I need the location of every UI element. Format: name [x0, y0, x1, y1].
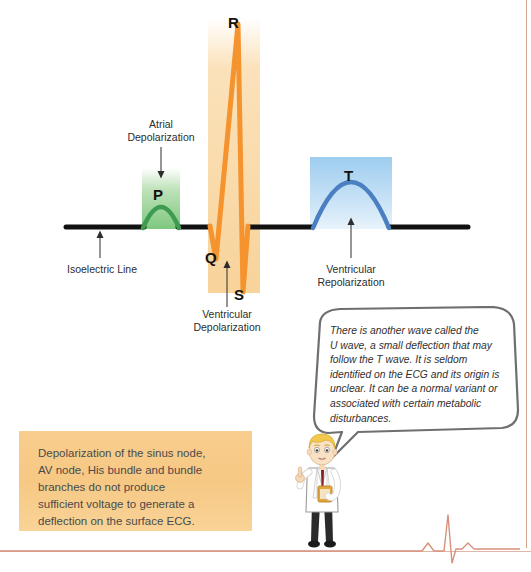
r-wave-label: R	[228, 14, 239, 31]
s-wave-label: S	[234, 286, 244, 303]
q-wave-label: Q	[205, 249, 217, 266]
atrial-depolarization-label: Atrial Depolarization	[111, 118, 211, 144]
ecg-waveform-diagram	[0, 0, 531, 340]
isoelectric-line-label: Isoelectric Line	[47, 263, 157, 276]
decorative-ecg-trace	[0, 505, 531, 565]
ventricular-depolarization-label: Ventricular Depolarization	[177, 308, 277, 334]
ventricular-repolarization-label: Ventricular Repolarization	[301, 263, 401, 289]
isoelectric-arrow-head	[97, 231, 104, 239]
slide-canvas: P Q R S T Atrial Depolarization Isoelect…	[0, 0, 531, 572]
t-wave-label: T	[344, 167, 353, 184]
speech-bubble-text: There is another wave called the U wave,…	[330, 324, 508, 426]
p-wave-label: P	[153, 186, 163, 203]
